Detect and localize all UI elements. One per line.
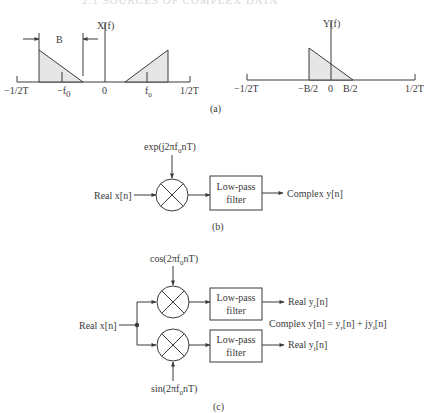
negative-band-triangle [39, 50, 83, 82]
tick-label-neg-half: −1/2T [234, 83, 259, 94]
output-real-yr: Real yr[n] [288, 296, 328, 310]
filter-bottom-label-2: filter [226, 347, 246, 358]
tick-label-b2: B/2 [343, 83, 357, 94]
mixer-bottom-icon [157, 329, 189, 361]
output-real-yi: Real yi[n] [288, 339, 327, 353]
tick-label-zero: 0 [328, 83, 333, 94]
filter-top-label-2: filter [226, 305, 246, 316]
input-label: Real x[n] [79, 320, 117, 331]
filter-label-1: Low-pass [217, 181, 256, 192]
input-label: Real x[n] [94, 190, 132, 201]
plot-title-y: Y(f) [323, 18, 340, 30]
complex-mixer-diagram: exp(j2πf0nT) Real x[n] Low-pass filter C… [94, 141, 343, 211]
filter-top-label-1: Low-pass [217, 292, 256, 303]
output-label: Complex y[n] [287, 188, 343, 199]
sin-label: sin(2πf0nT) [151, 383, 197, 397]
complex-equation: Complex y[n] = yr[n] + jyi[n] [269, 318, 387, 332]
mixer-top-icon [157, 286, 189, 318]
spectrum-x-plot: B X(f) −1/2T −f0 0 f0 1/2T [4, 20, 199, 99]
tick-label-pos-half: 1/2T [180, 85, 199, 96]
filter-bottom-label-1: Low-pass [217, 334, 256, 345]
cos-label: cos(2πf0nT) [150, 253, 198, 267]
caption-c: (c) [213, 401, 224, 413]
tick-label-neg-f0: −f0 [57, 85, 71, 99]
tick-label-pos-half: 1/2T [405, 83, 424, 94]
branch-top [137, 302, 156, 325]
plot-title-x: X(f) [97, 20, 114, 32]
branch-bottom [137, 325, 156, 345]
page-header: 2.1 SOURCES OF COMPLEX DATA [82, 0, 278, 6]
tick-label-f0: f0 [145, 85, 152, 99]
complex-data-diagram: 2.1 SOURCES OF COMPLEX DATA B X(f) −1/2T… [0, 0, 436, 413]
oscillator-label: exp(j2πf0nT) [144, 141, 196, 155]
bandwidth-label: B [56, 34, 63, 45]
iq-demodulator-diagram: cos(2πf0nT) Real x[n] Low-pass filter Lo… [79, 253, 387, 397]
caption-a: (a) [210, 103, 221, 115]
tick-label-zero: 0 [102, 85, 107, 96]
caption-b: (b) [212, 221, 224, 233]
tick-label-neg-half: −1/2T [4, 85, 29, 96]
spectrum-y-plot: Y(f) −1/2T −B/2 0 B/2 1/2T [234, 18, 424, 94]
mixer-icon [156, 179, 188, 211]
tick-label-neg-b2: −B/2 [298, 83, 318, 94]
filter-label-2: filter [226, 194, 246, 205]
